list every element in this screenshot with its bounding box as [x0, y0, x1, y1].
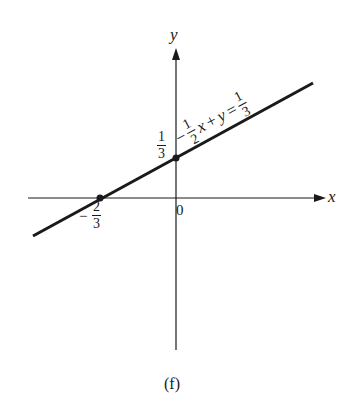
x-axis-label: x	[328, 188, 336, 205]
x-intercept-label: 2 3	[92, 200, 101, 231]
x-axis-arrow-icon	[314, 194, 326, 202]
figure-caption: (f)	[164, 376, 180, 392]
y-intercept-den: 3	[158, 147, 165, 161]
y-axis-label: y	[170, 26, 178, 43]
x-intercept-num: 2	[93, 200, 100, 214]
equation-coef-den: 2	[189, 131, 202, 147]
y-intercept-label: 1 3	[157, 130, 166, 161]
graph-canvas	[0, 0, 350, 401]
y-intercept-point	[173, 155, 180, 162]
y-intercept-num: 1	[158, 130, 165, 144]
origin-label: 0	[176, 203, 184, 218]
y-axis-arrow-icon	[172, 48, 180, 60]
x-intercept-sign: −	[79, 209, 87, 224]
x-intercept-den: 3	[93, 217, 100, 231]
